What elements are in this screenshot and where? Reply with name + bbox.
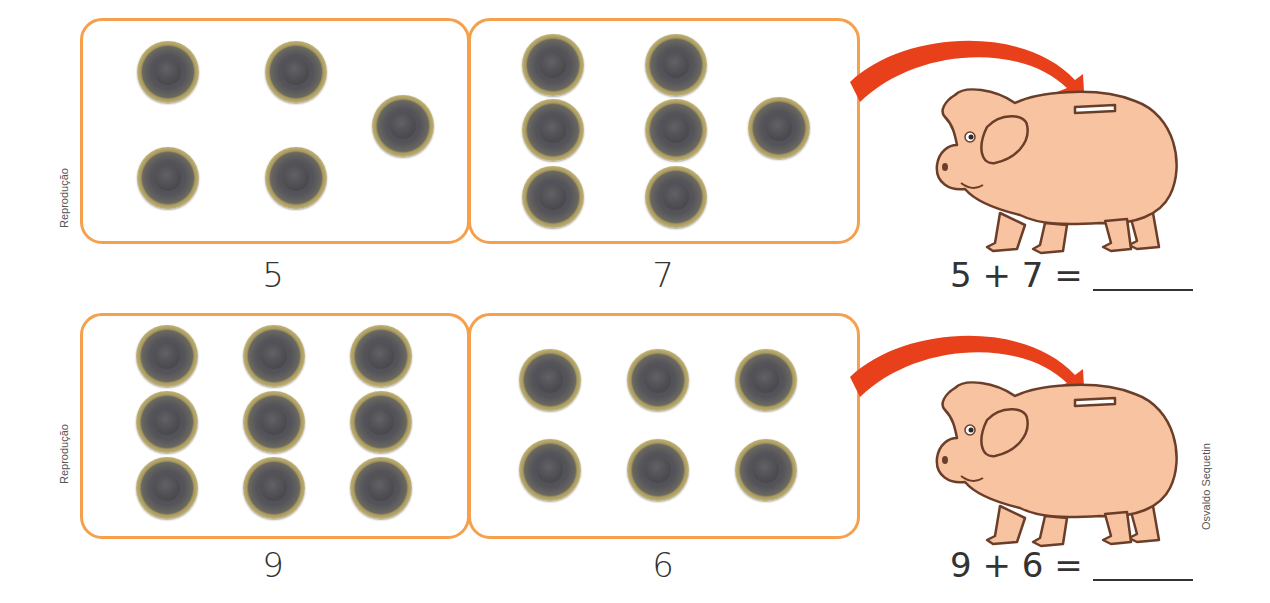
equation-row1: 5 + 7 = — [950, 258, 1193, 292]
coin-icon — [136, 391, 198, 453]
coin-icon — [265, 147, 327, 209]
coin-icon — [350, 391, 412, 453]
coin-icon — [735, 439, 797, 501]
coin-icon — [137, 147, 199, 209]
coin-icon — [372, 95, 434, 157]
image-credit-row1: Reprodução — [58, 168, 70, 228]
coin-icon — [522, 99, 584, 161]
count-label-row2-right: 6 — [652, 548, 674, 582]
coin-icon — [350, 325, 412, 387]
coin-icon — [627, 349, 689, 411]
image-credit-row2: Reprodução — [58, 424, 70, 484]
answer-blank[interactable] — [1093, 289, 1193, 291]
equation-text: 9 + 6 = — [950, 545, 1083, 585]
illustrator-credit: Osvaldo Sequetin — [1200, 443, 1212, 530]
count-label-row1-right: 7 — [652, 258, 674, 292]
equation-row2: 9 + 6 = — [950, 548, 1193, 582]
equation-text: 5 + 7 = — [950, 255, 1083, 295]
coin-icon — [136, 457, 198, 519]
coin-icon — [627, 439, 689, 501]
coin-icon — [735, 349, 797, 411]
coin-icon — [645, 99, 707, 161]
coin-icon — [645, 166, 707, 228]
coin-icon — [350, 457, 412, 519]
coin-icon — [748, 97, 810, 159]
coin-icon — [522, 34, 584, 96]
coin-icon — [522, 166, 584, 228]
count-label-row1-left: 5 — [262, 258, 284, 292]
coin-icon — [645, 34, 707, 96]
piggy-bank-icon — [925, 85, 1195, 255]
piggy-bank-icon — [925, 378, 1195, 548]
coin-icon — [519, 349, 581, 411]
coin-icon — [265, 41, 327, 103]
coin-icon — [243, 325, 305, 387]
coin-icon — [519, 439, 581, 501]
answer-blank[interactable] — [1093, 579, 1193, 581]
coin-icon — [243, 391, 305, 453]
coin-icon — [136, 325, 198, 387]
count-label-row2-left: 9 — [262, 548, 284, 582]
coin-box-row2-right — [468, 313, 860, 539]
coin-icon — [243, 457, 305, 519]
coin-icon — [137, 41, 199, 103]
